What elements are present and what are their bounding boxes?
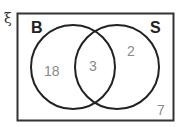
outside-count: 7 (157, 102, 165, 118)
s-only-count: 2 (127, 43, 135, 59)
set-s-circle (75, 25, 159, 109)
b-only-count: 18 (44, 63, 60, 79)
set-s-label: S (150, 19, 161, 37)
set-b-label: B (31, 19, 43, 37)
intersection-count: 3 (89, 58, 97, 74)
